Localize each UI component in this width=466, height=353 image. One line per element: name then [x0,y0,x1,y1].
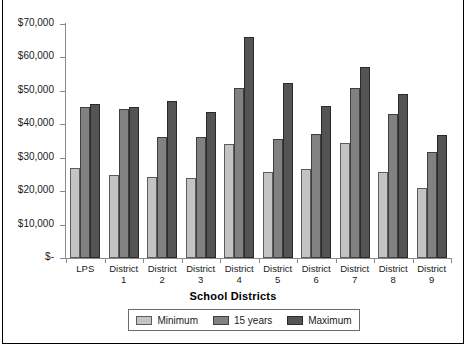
bar-group [336,24,375,258]
bar-minimum [186,178,196,258]
x-axis-category-label-line1: District [148,263,177,274]
y-axis-tick-label: $70,000 [18,17,54,28]
legend-item-15-years[interactable]: 15 years [213,315,272,326]
bar-15-years [350,88,360,258]
legend-label: Minimum [157,315,198,326]
x-axis-category-label-line2: 9 [408,274,456,285]
chart-legend[interactable]: Minimum15 yearsMaximum [128,309,360,331]
bar-maximum [129,107,139,258]
x-axis-category-label: District9 [408,263,456,285]
x-axis-category-label-line1: District [263,263,292,274]
bar-15-years [273,139,283,258]
bar-minimum [109,175,119,258]
bar-minimum [340,143,350,258]
legend-swatch-icon [287,316,303,325]
y-axis-tick: $20,000 [0,191,66,192]
bar-minimum [301,169,311,258]
x-axis-category-label-line1: District [302,263,331,274]
bar-15-years [311,134,321,258]
x-axis-category-label-line1: District [186,263,215,274]
bar-minimum [224,144,234,258]
y-axis-tick-label: $10,000 [18,218,54,229]
plot-area [66,24,451,258]
bar-15-years [388,114,398,258]
bar-maximum [283,83,293,259]
bar-group [143,24,182,258]
bar-maximum [206,112,216,258]
legend-label: 15 years [234,315,272,326]
x-axis-category-label-line1: District [379,263,408,274]
x-axis-category-label-line1: District [340,263,369,274]
bar-maximum [321,106,331,258]
bar-15-years [119,109,129,258]
legend-swatch-icon [213,316,229,325]
bar-group [297,24,336,258]
y-axis-tick: $30,000 [0,158,66,159]
bar-15-years [427,152,437,258]
chart-page: $-$10,000$20,000$30,000$40,000$50,000$60… [0,0,466,353]
bar-group [259,24,298,258]
bar-minimum [70,168,80,258]
legend-item-minimum[interactable]: Minimum [136,315,198,326]
y-axis-tick-label: $- [45,251,54,262]
bar-15-years [157,137,167,258]
bar-group [66,24,105,258]
bar-minimum [378,172,388,258]
bar-15-years [234,88,244,258]
bar-maximum [167,101,177,258]
y-axis-tick: $60,000 [0,57,66,58]
bar-15-years [80,107,90,258]
bar-maximum [90,104,100,258]
y-axis-tick: $10,000 [0,225,66,226]
x-axis-title: School Districts [0,290,466,302]
x-axis-category-label-line1: District [109,263,138,274]
legend-label: Maximum [308,315,351,326]
y-axis-tick: $50,000 [0,91,66,92]
y-axis-tick-label: $50,000 [18,84,54,95]
y-axis-tick: $40,000 [0,124,66,125]
bar-group [220,24,259,258]
bar-maximum [398,94,408,258]
y-axis-tick-label: $20,000 [18,184,54,195]
y-axis-tick-label: $60,000 [18,50,54,61]
bar-maximum [437,135,447,258]
bar-15-years [196,137,206,258]
bar-maximum [244,37,254,258]
legend-swatch-icon [136,316,152,325]
x-axis-category-label-line1: LPS [76,263,94,274]
y-axis-tick: $- [0,258,66,259]
bar-group [105,24,144,258]
bar-minimum [263,172,273,258]
bar-group [374,24,413,258]
bar-group [182,24,221,258]
figure-border-bottom [2,343,464,344]
x-axis-category-label-line1: District [225,263,254,274]
bar-maximum [360,67,370,258]
legend-item-maximum[interactable]: Maximum [287,315,351,326]
x-axis-category-label-line1: District [417,263,446,274]
bar-minimum [417,188,427,258]
y-axis-tick: $70,000 [0,24,66,25]
y-axis-tick-label: $40,000 [18,117,54,128]
bar-minimum [147,177,157,258]
bar-group [413,24,452,258]
y-axis-tick-label: $30,000 [18,151,54,162]
